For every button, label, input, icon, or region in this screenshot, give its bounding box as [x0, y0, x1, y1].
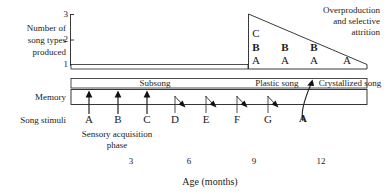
stimulus-label-D: D: [167, 113, 183, 125]
stimulus-label-A1: A: [81, 113, 97, 125]
repertoire-cell-c-1: C: [248, 27, 264, 39]
overproduction-annotation-line-3: attrition: [262, 27, 380, 37]
repertoire-cell-a-4: A: [339, 54, 355, 66]
repertoire-cell-a-3: A: [306, 54, 322, 66]
stimulus-label-E: E: [198, 113, 214, 125]
x-tick-label-3: 3: [124, 156, 138, 166]
sensory-phase-label-line-2: phase: [55, 140, 179, 150]
repertoire-cell-b-3: B: [306, 41, 322, 53]
baseline-band: [71, 65, 248, 70]
y-axis-label-line-3: produced: [6, 47, 66, 57]
overproduction-annotation-line-1: Overproduction: [262, 5, 380, 15]
y-axis-label-line-1: Number of: [6, 23, 66, 33]
stimulus-label-B: B: [110, 113, 126, 125]
stimulus-label-G: G: [260, 113, 276, 125]
repertoire-cell-b-1: B: [248, 41, 264, 53]
song-learning-diagram: Number of song types produced 3 2 1 Over…: [0, 0, 387, 194]
stimulus-label-C: C: [139, 113, 155, 125]
y-tick-label-3: 3: [56, 9, 68, 19]
x-tick-label-12: 12: [312, 156, 330, 166]
phase-label-plastic-song: Plastic song: [243, 78, 311, 88]
x-tick-label-6: 6: [182, 156, 196, 166]
x-tick-label-9: 9: [247, 156, 261, 166]
repertoire-cell-b-2: B: [277, 41, 293, 53]
repertoire-cell-a-1: A: [248, 54, 264, 66]
repertoire-cell-a-2: A: [277, 54, 293, 66]
stimulus-label-A2-recalled: A: [294, 112, 312, 124]
overproduction-annotation-line-2: and selective: [262, 16, 380, 26]
phase-label-crystallized-song: Crystallized song: [313, 78, 387, 88]
row-label-memory: Memory: [6, 92, 66, 102]
x-axis-title: Age (months): [160, 176, 260, 187]
y-tick-label-2: 2: [56, 34, 68, 44]
row-label-song-stimuli: Song stimuli: [0, 115, 66, 125]
y-tick-label-1: 1: [56, 59, 68, 69]
stimulus-label-F: F: [229, 113, 245, 125]
sensory-phase-label-line-1: Sensory acquisition: [55, 129, 179, 139]
phase-label-subsong: Subsong: [110, 78, 200, 88]
